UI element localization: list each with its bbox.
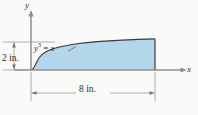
dimension-arrowhead-down: [12, 65, 16, 70]
dimension-arrowhead-right: [150, 91, 155, 95]
curve-equation-label: y3 = x: [34, 42, 55, 53]
x-axis-label: x: [187, 65, 191, 74]
dimension-arrowhead-up: [12, 43, 16, 48]
dimension-arrowhead-left: [32, 91, 37, 95]
vertical-dimension-label: 2 in.: [2, 54, 19, 64]
equation-rhs: x: [51, 43, 55, 53]
y-axis-arrowhead: [28, 10, 33, 17]
equation-operator: =: [41, 43, 51, 53]
figure-svg: [0, 0, 198, 115]
horizontal-dimension-label: 8 in.: [79, 85, 96, 95]
y-axis-label: y: [25, 1, 29, 10]
figure-container: y x 2 in. 8 in. y3 = x: [0, 0, 198, 115]
